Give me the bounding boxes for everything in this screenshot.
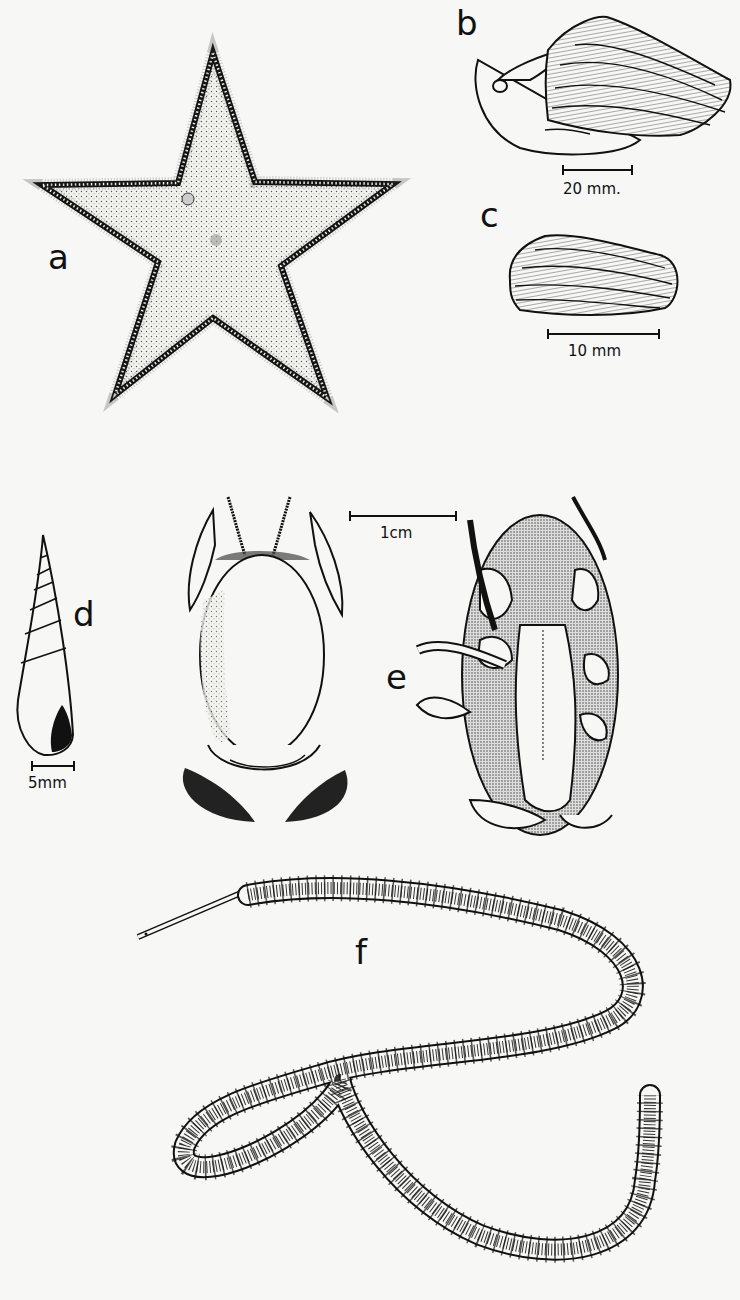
crab-dorsal-drawing: [183, 497, 348, 822]
panel-label-f: f: [355, 935, 367, 969]
snail-d-drawing: [17, 535, 74, 771]
starfish-drawing: [42, 53, 393, 398]
panel-label-a: a: [48, 240, 69, 274]
bivalve-c-drawing: [510, 235, 678, 339]
panel-label-e: e: [386, 660, 407, 694]
scale-label-e: 1cm: [380, 526, 412, 541]
specimen-plate: b a c d e f 20 mm. 10 mm 5mm 1cm: [0, 0, 740, 1300]
panel-label-c: c: [480, 198, 499, 232]
scale-label-c: 10 mm: [568, 344, 621, 359]
scale-label-d: 5mm: [28, 776, 67, 791]
plate-drawings: [0, 0, 740, 1300]
panel-label-d: d: [73, 597, 95, 631]
scale-label-b: 20 mm.: [563, 182, 621, 197]
crab-ventral-drawing: [417, 497, 618, 835]
ribbon-worm-drawing: [138, 888, 650, 1250]
bivalve-b-drawing: [475, 17, 730, 175]
scale-bar-1cm: [350, 511, 456, 521]
panel-label-b: b: [456, 6, 478, 40]
